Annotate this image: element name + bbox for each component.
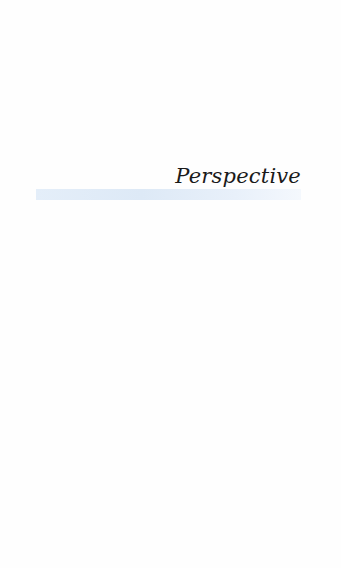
accent-bar (36, 189, 301, 200)
document-page: Perspective (0, 0, 341, 568)
section-title: Perspective (175, 166, 301, 187)
